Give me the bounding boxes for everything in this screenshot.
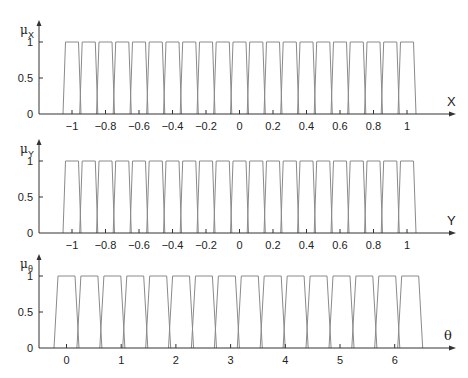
trapezoid-mf	[298, 42, 316, 114]
trapezoid-mf	[283, 276, 308, 348]
trapezoid-mf	[169, 276, 194, 348]
x-tick-label: −0.4	[162, 239, 184, 251]
y-tick-label: 0.5	[18, 191, 33, 203]
x-axis-arrow-icon	[449, 231, 456, 236]
x-tick-label: −0.6	[128, 239, 150, 251]
trapezoid-mf	[298, 161, 316, 233]
trapezoid-mf	[365, 161, 383, 233]
x-axis-label: X	[447, 94, 456, 109]
x-tick-label: 0.8	[366, 120, 381, 132]
x-tick-label: −1	[66, 239, 79, 251]
trapezoid-mf	[398, 42, 416, 114]
x-tick-label: 0.6	[332, 120, 347, 132]
x-tick-label: 0.2	[265, 239, 280, 251]
membership-functions	[63, 42, 416, 114]
panel-1: 00.51−1−0.8−0.6−0.4−0.200.20.40.60.81μXX	[18, 20, 456, 132]
x-tick-label: 2	[173, 354, 179, 366]
panel-2: 00.51−1−0.8−0.6−0.4−0.200.20.40.60.81μYY	[18, 139, 456, 251]
x-tick-label: −0.2	[195, 120, 217, 132]
x-axis-arrow-icon	[449, 112, 456, 117]
membership-functions	[63, 161, 416, 233]
trapezoid-mf	[375, 276, 400, 348]
trapezoid-mf	[197, 161, 215, 233]
trapezoid-mf	[381, 161, 399, 233]
trapezoid-mf	[329, 276, 354, 348]
y-tick-label: 0.5	[18, 306, 33, 318]
trapezoid-mf	[164, 42, 182, 114]
trapezoid-mf	[146, 276, 171, 348]
trapezoid-mf	[281, 42, 299, 114]
trapezoid-mf	[264, 42, 282, 114]
trapezoid-mf	[381, 42, 399, 114]
trapezoid-mf	[77, 276, 102, 348]
x-tick-label: 1	[118, 354, 124, 366]
x-tick-label: −1	[66, 120, 79, 132]
trapezoid-mf	[314, 161, 332, 233]
trapezoid-mf	[130, 42, 148, 114]
y-axis-label: μ	[20, 142, 28, 156]
x-axis-arrow-icon	[449, 346, 456, 351]
trapezoid-mf	[80, 42, 98, 114]
trapezoid-mf	[306, 276, 331, 348]
trapezoid-mf	[237, 276, 262, 348]
x-tick-label: 1	[404, 239, 410, 251]
x-tick-label: 4	[282, 354, 288, 366]
y-tick-label: 0	[27, 108, 33, 120]
x-tick-label: 0.8	[366, 239, 381, 251]
panel-3: 00.510123456μθθ	[18, 254, 456, 366]
trapezoid-mf	[214, 42, 232, 114]
trapezoid-mf	[123, 276, 148, 348]
x-tick-label: −0.8	[95, 120, 117, 132]
x-tick-label: −0.8	[95, 239, 117, 251]
trapezoid-mf	[352, 276, 377, 348]
trapezoid-mf	[331, 161, 349, 233]
y-axis-arrow-icon	[37, 254, 42, 260]
trapezoid-mf	[365, 42, 383, 114]
trapezoid-mf	[97, 42, 115, 114]
x-tick-label: 0	[63, 354, 69, 366]
x-tick-label: 0	[236, 239, 242, 251]
trapezoid-mf	[80, 161, 98, 233]
trapezoid-mf	[164, 161, 182, 233]
y-tick-label: 0	[27, 227, 33, 239]
trapezoid-mf	[63, 161, 81, 233]
y-axis-arrow-icon	[37, 139, 42, 145]
x-tick-label: −0.6	[128, 120, 150, 132]
trapezoid-mf	[113, 42, 131, 114]
trapezoid-mf	[197, 42, 215, 114]
trapezoid-mf	[264, 161, 282, 233]
trapezoid-mf	[97, 161, 115, 233]
trapezoid-mf	[214, 276, 239, 348]
trapezoid-mf	[100, 276, 125, 348]
y-tick-label: 0	[27, 342, 33, 354]
x-tick-label: 0	[236, 120, 242, 132]
trapezoid-mf	[147, 42, 165, 114]
y-axis-arrow-icon	[37, 20, 42, 26]
membership-function-figure: 00.51−1−0.8−0.6−0.4−0.200.20.40.60.81μXX…	[0, 0, 468, 378]
trapezoid-mf	[348, 161, 366, 233]
y-axis-label-subscript: Y	[28, 149, 34, 159]
y-axis-label-subscript: X	[28, 30, 34, 40]
trapezoid-mf	[314, 42, 332, 114]
x-tick-label: 0.4	[299, 239, 314, 251]
trapezoid-mf	[191, 276, 216, 348]
trapezoid-mf	[180, 161, 198, 233]
y-axis-label-subscript: θ	[28, 264, 33, 274]
trapezoid-mf	[247, 161, 265, 233]
y-axis-label: μ	[20, 257, 28, 271]
membership-functions	[54, 276, 423, 348]
x-axis-label: Y	[447, 213, 456, 228]
x-tick-label: 3	[228, 354, 234, 366]
trapezoid-mf	[180, 42, 198, 114]
trapezoid-mf	[214, 161, 232, 233]
x-tick-label: −0.4	[162, 120, 184, 132]
x-axis-label: θ	[444, 328, 452, 343]
x-tick-label: 0.6	[332, 239, 347, 251]
trapezoid-mf	[147, 161, 165, 233]
trapezoid-mf	[331, 42, 349, 114]
trapezoid-mf	[231, 42, 249, 114]
x-tick-label: 0.2	[265, 120, 280, 132]
trapezoid-mf	[348, 42, 366, 114]
y-tick-label: 0.5	[18, 72, 33, 84]
x-tick-label: 6	[392, 354, 398, 366]
